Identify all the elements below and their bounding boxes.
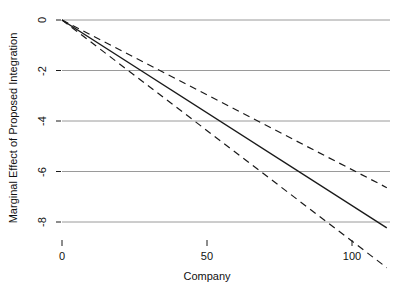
y-tick-label-minus-8: -8 xyxy=(36,212,48,232)
y-tick-label-0: 0 xyxy=(36,10,48,30)
y-axis-title: Marginal Effect of Proposed Integration xyxy=(7,28,19,228)
x-axis-title: Company xyxy=(147,270,267,282)
upper-confidence-bound xyxy=(62,20,387,188)
y-axis-ticks xyxy=(56,20,61,222)
marginal-effect-chart: 0 -2 -4 -6 -8 0 50 100 Marginal Effect o… xyxy=(0,0,402,293)
lower-confidence-bound xyxy=(62,20,387,268)
x-tick-label-100: 100 xyxy=(332,250,372,262)
x-tick-label-0: 0 xyxy=(42,250,82,262)
x-axis-ticks xyxy=(62,240,352,246)
marginal-effect-line xyxy=(62,20,387,228)
gridlines xyxy=(62,20,390,222)
y-tick-label-minus-4: -4 xyxy=(36,111,48,131)
y-tick-label-minus-6: -6 xyxy=(36,162,48,182)
x-tick-label-50: 50 xyxy=(187,250,227,262)
y-tick-label-minus-2: -2 xyxy=(36,61,48,81)
